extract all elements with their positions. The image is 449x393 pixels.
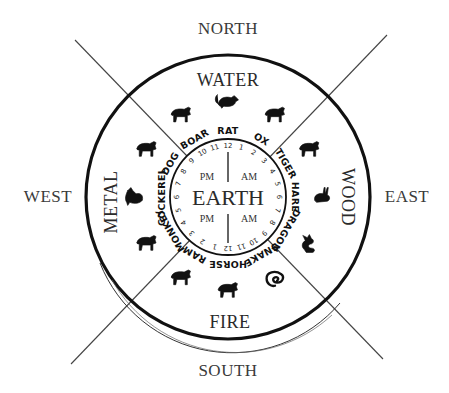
hour-tick-label: 6 — [275, 195, 283, 200]
label-pm-upper: PM — [200, 171, 215, 182]
label-pm-lower: PM — [200, 213, 215, 224]
boar-icon — [171, 107, 190, 122]
dragon-icon — [302, 235, 314, 253]
label-am-lower: AM — [241, 213, 257, 224]
compass-east: EAST — [385, 187, 430, 206]
hare-icon — [315, 188, 330, 203]
ox-icon — [265, 107, 284, 122]
animal-name-rat: RAT — [217, 125, 239, 136]
compass-north: NORTH — [198, 19, 258, 38]
cockerel-icon — [126, 188, 143, 206]
horse-icon — [218, 283, 237, 298]
element-fire: FIRE — [209, 312, 250, 332]
compass-west: WEST — [24, 187, 72, 206]
rat-icon — [215, 95, 238, 109]
element-earth: EARTH — [192, 185, 264, 210]
monkey-icon — [137, 236, 156, 251]
ram-icon — [171, 270, 190, 285]
dog-icon — [137, 142, 156, 157]
tiger-icon — [300, 142, 319, 157]
element-metal: METAL — [101, 170, 121, 233]
hour-tick-label: 12 — [224, 244, 233, 252]
snake-icon — [267, 272, 283, 286]
animal-name-cockerel: COCKEREL — [156, 168, 167, 226]
compass-south: SOUTH — [198, 361, 257, 380]
element-water: WATER — [197, 70, 260, 90]
zodiac-wheel-diagram: NORTH SOUTH WEST EAST WATER FIRE METAL W… — [0, 0, 449, 393]
hour-tick-label: 12 — [224, 142, 233, 150]
animal-name-horse: HORSE — [209, 259, 247, 270]
label-am-upper: AM — [241, 171, 257, 182]
element-wood: WOOD — [338, 168, 358, 226]
hour-tick-label: 6 — [173, 194, 181, 199]
